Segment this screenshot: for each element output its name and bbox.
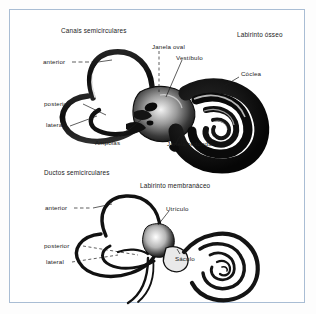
inner-ear-figure: Canais semicirculares Labirinto ósseo an… — [0, 0, 316, 314]
label-membranous-lateral: lateral — [46, 259, 64, 265]
label-membranous-anterior: anterior — [45, 205, 67, 211]
label-membranous-saculo: Sáculo — [175, 256, 195, 262]
panel-membranous-labyrinth: Ductos semicirculares Labirinto membraná… — [0, 0, 316, 314]
label-membranous-utriculo: Utrículo — [166, 206, 189, 212]
membranous-cochlear-duct — [184, 234, 258, 301]
heading-ductos-semicirculares: Ductos semicirculares — [44, 170, 110, 176]
label-membranous-posterior: posterior — [44, 243, 69, 249]
membranous-labyrinth-artwork — [0, 0, 316, 314]
title-labirinto-membranaceo: Labirinto membranáceo — [140, 183, 210, 189]
